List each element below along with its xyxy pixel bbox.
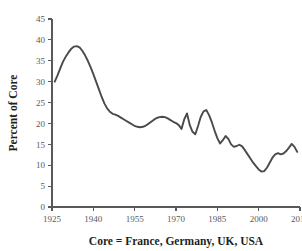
y-tick-label-20: 20 <box>36 119 46 129</box>
y-tick-label-25: 25 <box>36 98 46 108</box>
x-tick-label-1985: 1985 <box>208 214 227 224</box>
x-axis-caption: Core = France, Germany, UK, USA <box>89 235 264 248</box>
y-tick-label-5: 5 <box>41 181 46 191</box>
y-axis-group: 051015202530354045 <box>36 14 52 212</box>
x-tick-label-2015: 2015 <box>291 214 302 224</box>
y-tick-label-40: 40 <box>36 35 46 45</box>
y-tick-label-0: 0 <box>41 202 46 212</box>
y-tick-label-15: 15 <box>36 140 46 150</box>
x-tick-label-2000: 2000 <box>250 214 269 224</box>
x-tick-label-1955: 1955 <box>126 214 145 224</box>
y-tick-label-30: 30 <box>36 77 46 87</box>
line-chart-svg: 051015202530354045 192519401955197019852… <box>0 0 302 251</box>
y-tick-label-35: 35 <box>36 56 46 66</box>
x-tick-label-1970: 1970 <box>167 214 186 224</box>
y-axis-title: Percent of Core <box>7 75 19 152</box>
y-axis-tick-labels: 051015202530354045 <box>36 14 46 212</box>
chart-figure: 051015202530354045 192519401955197019852… <box>0 0 302 251</box>
x-axis-group: 1925194019551970198520002015 <box>43 207 302 224</box>
y-tick-label-10: 10 <box>36 160 46 170</box>
x-axis-tick-labels: 1925194019551970198520002015 <box>43 214 302 224</box>
data-series-line <box>55 46 297 171</box>
y-tick-label-45: 45 <box>36 14 46 24</box>
x-tick-label-1940: 1940 <box>84 214 103 224</box>
x-axis-ticks <box>52 207 300 211</box>
x-tick-label-1925: 1925 <box>43 214 62 224</box>
